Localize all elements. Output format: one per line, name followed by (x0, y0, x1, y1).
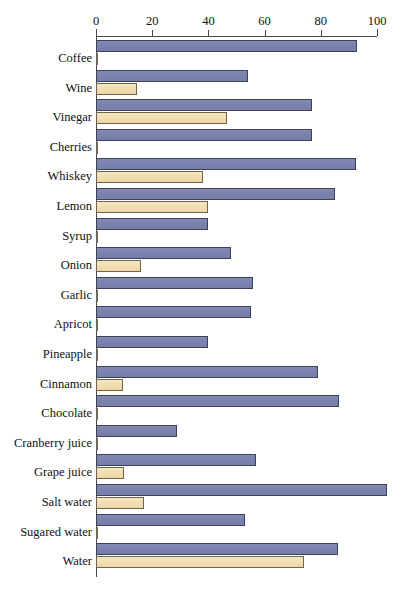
x-axis-tick-mark (321, 30, 322, 36)
bar-series-2 (96, 556, 304, 568)
chart-row: Sugared water (0, 514, 403, 539)
bar-series-2 (96, 467, 124, 479)
category-label: Pineapple (0, 347, 92, 361)
x-axis-tick-mark (208, 30, 209, 36)
bar-series-2 (96, 527, 98, 539)
category-label: Wine (0, 81, 92, 95)
category-label: Water (0, 554, 92, 568)
bar-series-1 (96, 543, 338, 555)
chart-row: Apricot (0, 306, 403, 331)
bar-series-2 (96, 408, 98, 420)
bar-series-2 (96, 171, 203, 183)
category-label: Grape juice (0, 465, 92, 479)
category-label: Chocolate (0, 406, 92, 420)
x-axis-tick-label: 0 (93, 14, 99, 28)
bar-series-1 (96, 129, 312, 141)
chart-row: Garlic (0, 277, 403, 302)
bar-series-1 (96, 514, 245, 526)
chart-row: Cinnamon (0, 366, 403, 391)
bar-series-2 (96, 497, 144, 509)
chart-row: Wine (0, 70, 403, 95)
chart-row: Salt water (0, 484, 403, 509)
chart-row: Onion (0, 247, 403, 272)
bar-series-2 (96, 201, 208, 213)
bar-series-2 (96, 231, 98, 243)
bar-series-2 (96, 438, 98, 450)
category-label: Garlic (0, 288, 92, 302)
bar-series-1 (96, 395, 339, 407)
bar-series-2 (96, 349, 98, 361)
category-label: Onion (0, 258, 92, 272)
bar-chart: 020406080100 CoffeeWineVinegarCherriesWh… (0, 0, 403, 593)
category-label: Syrup (0, 229, 92, 243)
x-axis-tick-label: 80 (315, 14, 328, 28)
chart-row: Whiskey (0, 158, 403, 183)
x-axis-tick-mark (96, 29, 97, 36)
bar-series-1 (96, 247, 231, 259)
chart-row: Grape juice (0, 454, 403, 479)
x-axis-tick-mark (377, 29, 378, 36)
category-label: Salt water (0, 495, 92, 509)
category-label: Sugared water (0, 525, 92, 539)
bar-series-2 (96, 112, 227, 124)
chart-row: Lemon (0, 188, 403, 213)
category-label: Apricot (0, 317, 92, 331)
bar-series-2 (96, 83, 137, 95)
bar-series-2 (96, 290, 98, 302)
category-label: Cherries (0, 140, 92, 154)
bar-series-1 (96, 70, 248, 82)
x-axis-tick-label: 40 (202, 14, 215, 28)
category-label: Cranberry juice (0, 436, 92, 450)
bar-series-1 (96, 40, 357, 52)
x-axis-tick-mark (152, 30, 153, 36)
chart-row: Water (0, 543, 403, 568)
bar-series-1 (96, 454, 256, 466)
x-axis-tick-labels: 020406080100 (0, 14, 403, 30)
x-axis-line (96, 36, 377, 37)
bar-series-2 (96, 260, 141, 272)
bar-series-1 (96, 99, 312, 111)
chart-row: Syrup (0, 218, 403, 243)
x-axis-tick-label: 60 (258, 14, 271, 28)
bar-series-2 (96, 319, 98, 331)
category-label: Vinegar (0, 110, 92, 124)
bar-series-1 (96, 188, 335, 200)
bar-series-1 (96, 425, 177, 437)
bar-series-1 (96, 306, 251, 318)
chart-row: Vinegar (0, 99, 403, 124)
chart-row: Cranberry juice (0, 425, 403, 450)
chart-row: Pineapple (0, 336, 403, 361)
chart-row: Coffee (0, 40, 403, 65)
bar-series-1 (96, 277, 253, 289)
category-label: Lemon (0, 199, 92, 213)
x-axis-tick-label: 100 (368, 14, 387, 28)
bar-series-1 (96, 484, 387, 496)
x-axis-tick-mark (265, 30, 266, 36)
chart-row: Cherries (0, 129, 403, 154)
bar-series-1 (96, 218, 208, 230)
x-axis-tick-label: 20 (146, 14, 159, 28)
category-label: Whiskey (0, 169, 92, 183)
bar-series-2 (96, 142, 98, 154)
bar-series-2 (96, 53, 98, 65)
bar-series-1 (96, 366, 318, 378)
bar-series-2 (96, 379, 123, 391)
bar-series-1 (96, 158, 356, 170)
bar-series-1 (96, 336, 208, 348)
category-label: Cinnamon (0, 377, 92, 391)
chart-row: Chocolate (0, 395, 403, 420)
category-label: Coffee (0, 51, 92, 65)
